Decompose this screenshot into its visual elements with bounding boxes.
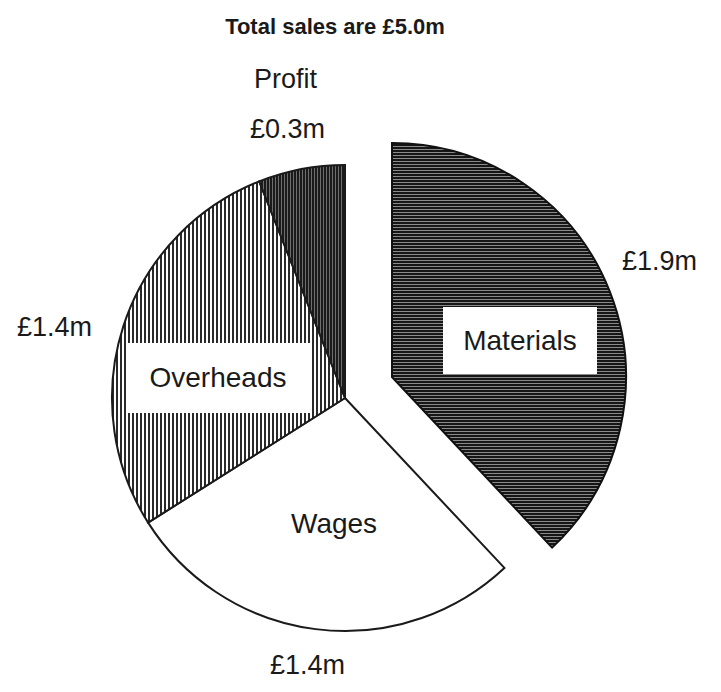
wages-value: £1.4m <box>270 650 345 681</box>
overheads-label: Overheads <box>150 362 287 394</box>
materials-value: £1.9m <box>622 246 697 277</box>
wages-label: Wages <box>291 508 377 540</box>
overheads-value: £1.4m <box>17 312 92 343</box>
materials-label: Materials <box>463 325 577 357</box>
profit-label: Profit <box>254 64 317 95</box>
materials-label-box: Materials <box>443 307 597 374</box>
overheads-label-box: Overheads <box>126 343 310 413</box>
profit-value: £0.3m <box>250 114 325 145</box>
chart-title: Total sales are £5.0m <box>0 14 670 40</box>
pie-chart <box>0 0 721 692</box>
